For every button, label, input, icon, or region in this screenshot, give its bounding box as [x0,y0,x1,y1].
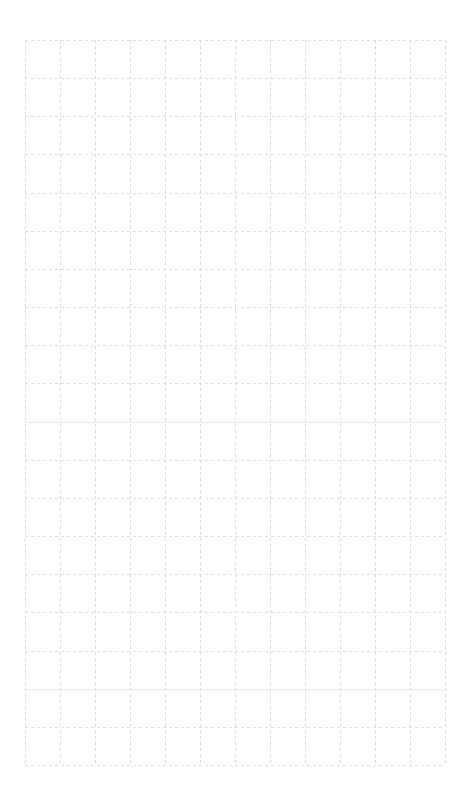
grid-column-line-3 [130,40,131,765]
grid-row-line-13 [25,536,445,537]
grid-column-line-11 [410,40,411,765]
grid-column-line-12 [445,40,446,765]
grid-row-line-4 [25,193,445,194]
grid-row-line-2 [25,116,445,117]
grid-column-line-9 [340,40,341,765]
grid-row-line-9 [25,383,445,384]
grid-row-line-18 [25,727,445,728]
grid-row-line-15 [25,612,445,613]
grid-row-line-7 [25,307,445,308]
grid-row-line-8 [25,345,445,346]
grid-row-line-12 [25,498,445,499]
grid-column-line-8 [305,40,306,765]
grid-row-line-5 [25,231,445,232]
grid-row-line-10 [25,422,445,423]
grid-row-line-1 [25,78,445,79]
grid-row-line-19 [25,765,445,766]
grid-column-line-1 [60,40,61,765]
graph-paper-grid[interactable] [25,40,445,765]
grid-column-line-4 [165,40,166,765]
grid-column-line-0 [25,40,26,765]
grid-column-line-5 [200,40,201,765]
grid-row-line-17 [25,689,445,690]
grid-row-line-0 [25,40,445,41]
grid-column-line-10 [375,40,376,765]
grid-row-line-3 [25,154,445,155]
grid-row-line-14 [25,574,445,575]
grid-column-line-7 [270,40,271,765]
grid-column-line-6 [235,40,236,765]
page-canvas [0,0,468,810]
grid-column-line-2 [95,40,96,765]
grid-row-line-11 [25,460,445,461]
grid-row-line-16 [25,651,445,652]
grid-row-line-6 [25,269,445,270]
